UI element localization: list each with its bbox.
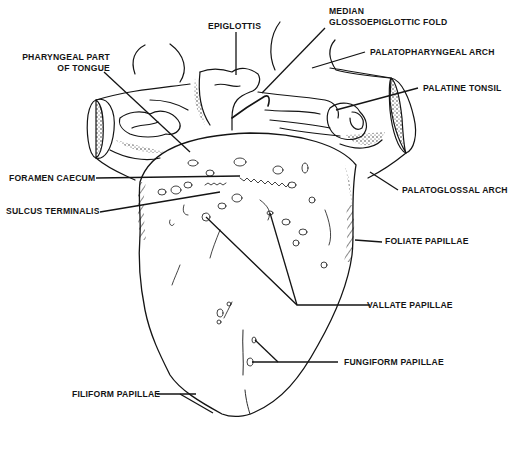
palatine-tonsil: [327, 103, 385, 148]
label-foliate-papillae: FOLIATE PAPILLAE: [385, 236, 469, 247]
label-fungiform-papillae: FUNGIFORM PAPILLAE: [344, 357, 444, 368]
label-palatoglossal-arch: PALATOGLOSSAL ARCH: [402, 185, 508, 196]
label-median-fold-line1: MEDIAN: [329, 6, 364, 17]
papillae: [158, 158, 331, 366]
label-vallate-papillae: VALLATE PAPILLAE: [367, 300, 453, 311]
right-pharyngeal-wall: [330, 68, 416, 178]
label-median-fold-line2: GLOSSOEPIGLOTTIC FOLD: [329, 17, 447, 28]
label-palatopharyngeal-arch: PALATOPHARYNGEAL ARCH: [370, 47, 495, 58]
label-filiform-papillae: FILIFORM PAPILLAE: [72, 389, 160, 400]
leader-lines: [96, 28, 418, 413]
epiglottis: [194, 68, 269, 130]
label-sulcus-terminalis: SULCUS TERMINALIS: [6, 206, 100, 217]
label-pharyngeal-part-line1: PHARYNGEAL PART: [22, 52, 110, 63]
label-epiglottis: EPIGLOTTIS: [208, 21, 261, 32]
label-palatine-tonsil: PALATINE TONSIL: [423, 83, 501, 94]
tongue-body: [138, 133, 356, 416]
label-pharyngeal-part-line2: OF TONGUE: [57, 63, 110, 74]
label-foramen-caecum: FORAMEN CAECUM: [9, 173, 95, 184]
left-pharyngeal-wall: [87, 84, 190, 180]
